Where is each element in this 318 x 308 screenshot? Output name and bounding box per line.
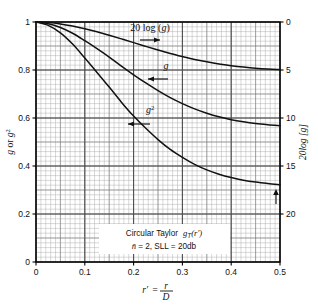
- y-left-axis-title: g or g2: [4, 129, 15, 154]
- svg-text:r′: r′: [142, 285, 149, 295]
- taylor-gain-chart: 00.10.20.30.40.5 00.20.40.60.81 05101520…: [0, 0, 318, 308]
- svg-text:0.2: 0.2: [128, 267, 140, 277]
- svg-text:D: D: [162, 292, 170, 302]
- svg-text:20log [g]: 20log [g]: [298, 124, 308, 160]
- svg-text:n̄= 2, SLL = 20db: n̄= 2, SLL = 20db: [132, 241, 197, 251]
- svg-text:0: 0: [25, 257, 30, 267]
- svg-text:Circular TaylorgT(r′): Circular TaylorgT(r′): [126, 228, 203, 239]
- svg-text:0: 0: [286, 17, 291, 27]
- svg-text:0.2: 0.2: [18, 209, 30, 219]
- svg-text:0.4: 0.4: [225, 267, 237, 277]
- svg-text:0.4: 0.4: [18, 161, 30, 171]
- svg-text:5: 5: [286, 65, 291, 75]
- annotation-box: Circular TaylorgT(r′) n̄= 2, SLL = 20db: [99, 224, 230, 254]
- svg-text:10: 10: [286, 113, 296, 123]
- svg-text:0.1: 0.1: [79, 267, 91, 277]
- svg-text:0: 0: [34, 267, 39, 277]
- svg-text:15: 15: [286, 161, 296, 171]
- chart-figure: 00.10.20.30.40.5 00.20.40.60.81 05101520…: [0, 0, 318, 308]
- svg-text:20 log (g): 20 log (g): [130, 22, 169, 34]
- svg-text:0.3: 0.3: [176, 267, 188, 277]
- svg-text:0.5: 0.5: [274, 267, 286, 277]
- svg-text:0.6: 0.6: [18, 113, 30, 123]
- svg-text:0.8: 0.8: [18, 65, 30, 75]
- svg-text:1: 1: [25, 17, 30, 27]
- svg-text:=: =: [152, 285, 158, 295]
- svg-text:20: 20: [286, 209, 296, 219]
- svg-text:r: r: [164, 281, 168, 291]
- svg-text:g: g: [164, 60, 169, 71]
- y-right-axis-title: 20log [g]: [298, 124, 308, 160]
- svg-text:g or g2: g or g2: [4, 129, 15, 154]
